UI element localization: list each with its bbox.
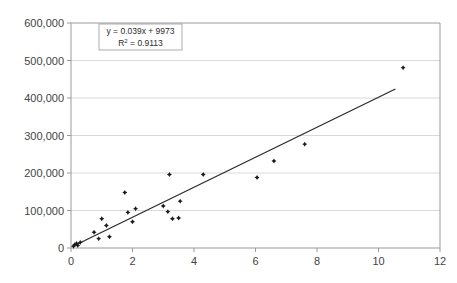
x-axis-tick-label: 8: [314, 255, 320, 267]
trendline-equation-box: y = 0.039x + 9973 R2 = 0.9113: [99, 24, 182, 50]
r-squared-value: = 0.9113: [128, 38, 163, 48]
y-axis-tick-label: 200,000: [24, 167, 64, 179]
y-axis-tick-label: 400,000: [24, 92, 64, 104]
chart-background: [0, 0, 457, 283]
x-axis-tick-label: 10: [372, 255, 384, 267]
y-axis-tick-label: 300,000: [24, 130, 64, 142]
equation-line-1: y = 0.039x + 9973: [106, 26, 174, 36]
x-axis-tick-label: 4: [191, 255, 197, 267]
scatter-chart-container: 0100,000200,000300,000400,000500,000600,…: [0, 0, 457, 283]
y-axis-tick-label: 0: [58, 242, 64, 254]
x-axis-tick-label: 6: [252, 255, 258, 267]
x-axis-tick-label: 12: [434, 255, 446, 267]
x-axis-tick-label: 2: [129, 255, 135, 267]
y-axis-tick-label: 500,000: [24, 55, 64, 67]
x-axis-tick-label: 0: [68, 255, 74, 267]
scatter-chart-svg: 0100,000200,000300,000400,000500,000600,…: [0, 0, 457, 283]
y-axis-tick-label: 100,000: [24, 205, 64, 217]
y-axis-tick-label: 600,000: [24, 17, 64, 29]
